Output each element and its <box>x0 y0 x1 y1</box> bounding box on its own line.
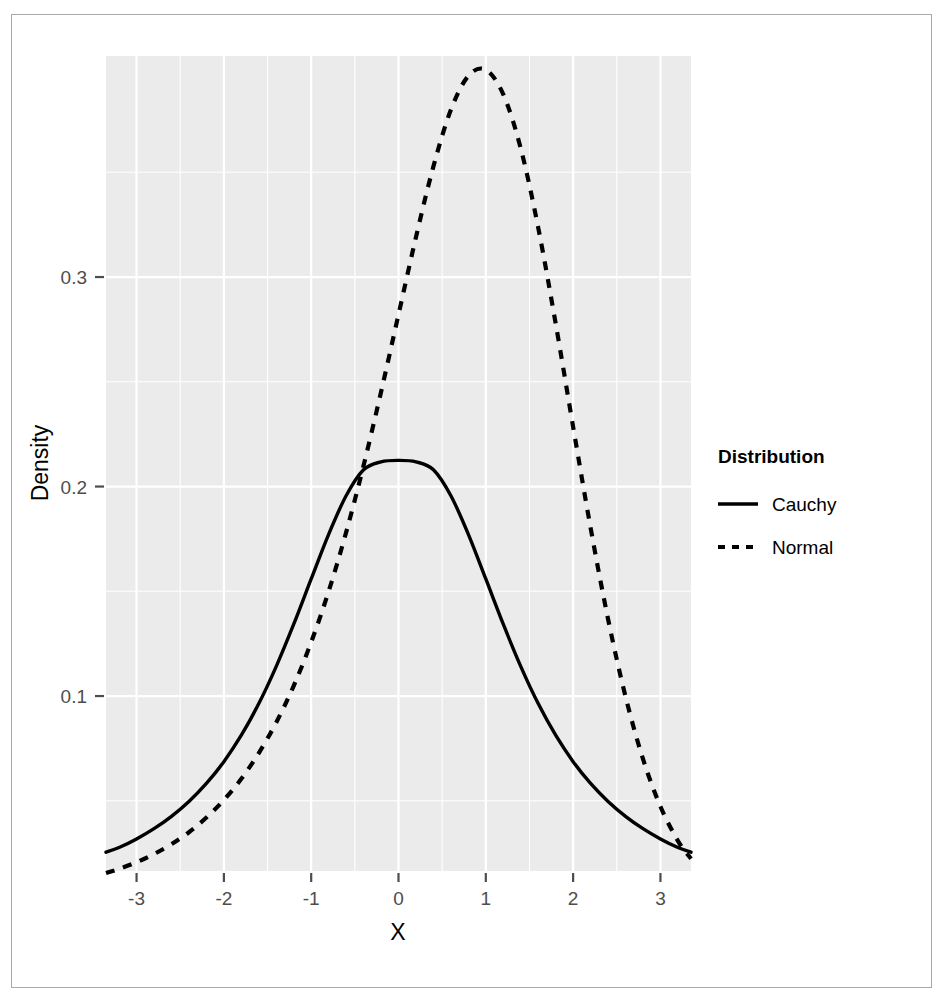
figure-frame: -3-2-10123 0.10.20.3 X Density Distribut… <box>11 14 932 988</box>
x-axis-tick-label: 1 <box>481 888 492 909</box>
legend-entry[interactable]: Cauchy <box>718 494 837 515</box>
x-axis-title: X <box>390 919 405 945</box>
x-axis-tick-label: 0 <box>393 888 404 909</box>
x-axis-tick-label: -1 <box>303 888 320 909</box>
legend[interactable]: Distribution CauchyNormal <box>718 446 837 558</box>
legend-entry-label: Cauchy <box>772 494 837 515</box>
y-axis: 0.10.20.3 <box>61 267 104 707</box>
density-comparison-chart: -3-2-10123 0.10.20.3 X Density Distribut… <box>12 15 931 987</box>
y-axis-tick-label: 0.3 <box>61 267 87 288</box>
legend-entry[interactable]: Normal <box>718 537 833 558</box>
x-axis-tick-label: 2 <box>568 888 579 909</box>
x-axis-tick-label: -3 <box>128 888 145 909</box>
x-axis: -3-2-10123 <box>128 873 666 909</box>
legend-title: Distribution <box>718 446 825 467</box>
legend-entries[interactable]: CauchyNormal <box>718 494 837 558</box>
x-axis-tick-label: 3 <box>655 888 666 909</box>
legend-entry-label: Normal <box>772 537 833 558</box>
y-axis-tick-label: 0.1 <box>61 686 87 707</box>
y-axis-title: Density <box>27 424 53 501</box>
x-axis-tick-label: -2 <box>215 888 232 909</box>
y-axis-tick-label: 0.2 <box>61 477 87 498</box>
